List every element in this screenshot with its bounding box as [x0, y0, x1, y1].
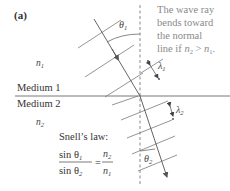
note-line-2: bends toward — [157, 17, 214, 28]
lambda1-sub: 1 — [162, 65, 165, 72]
n2-label: n2 — [36, 117, 45, 128]
theta2-label: θ2 — [144, 153, 153, 165]
panel-label: (a) — [14, 9, 27, 22]
theta1-sub: 1 — [124, 24, 127, 31]
n2-num-sub: 2 — [108, 153, 112, 160]
note-line-4: line if n2 > n1. — [157, 43, 215, 55]
annotation-note: The wave ray bends toward the normal lin… — [157, 4, 215, 55]
lambda1-label: λ1 — [157, 60, 166, 72]
n2-sub: 2 — [41, 121, 45, 128]
note-suffix: . — [213, 43, 216, 54]
lambda1-endpoint — [158, 78, 160, 80]
incident-wavefront — [85, 45, 134, 77]
note-line-4-prefix: line if — [157, 43, 184, 54]
incident-wavefronts — [78, 20, 163, 97]
n1-sub: 1 — [41, 62, 44, 69]
sin-theta2: sin θ — [59, 165, 79, 176]
lambda2-sub: 2 — [180, 109, 184, 116]
refraction-diagram: (a) The wave ray bends toward the normal… — [0, 0, 230, 191]
theta2-sub: 2 — [149, 158, 153, 165]
snells-law-denominator-right: n1 — [103, 165, 111, 177]
refracted-wavefront — [127, 120, 172, 138]
note-gt: > — [193, 43, 204, 54]
snells-law-numerator-left: sin θ1 — [59, 149, 82, 161]
lambda2-label: λ2 — [175, 104, 184, 116]
snells-law-numerator-right: n2 — [103, 148, 112, 160]
lambda1-endpoint — [147, 60, 149, 62]
lambda2-endpoint — [172, 118, 174, 120]
note-line-1: The wave ray — [157, 4, 215, 15]
sin-theta1: sin θ — [59, 149, 79, 160]
n1-label: n1 — [36, 58, 44, 69]
refracted-wavefront — [132, 136, 175, 154]
snells-law-denominator-left: sin θ2 — [59, 165, 83, 177]
theta1-label: θ1 — [119, 19, 127, 31]
snells-law-title: Snell’s law: — [59, 131, 108, 142]
incident-wavefront — [105, 73, 143, 97]
lambda1-dimension — [150, 65, 158, 78]
snells-law-equals: = — [95, 157, 101, 168]
lambda2-dimension — [170, 106, 173, 116]
medium-1-label: Medium 1 — [17, 82, 60, 93]
n1-den-sub: 1 — [108, 170, 111, 177]
note-line-3: the normal — [157, 30, 202, 41]
sin-theta1-sub: 1 — [79, 154, 82, 161]
sin-theta2-sub: 2 — [79, 170, 83, 177]
snells-law: Snell’s law: sin θ1 sin θ2 = n2 n1 — [59, 131, 113, 177]
theta1-arc — [107, 34, 140, 42]
incident-wavefront — [78, 20, 121, 48]
refracted-wavefront — [112, 96, 138, 105]
medium-2-label: Medium 2 — [17, 98, 60, 109]
